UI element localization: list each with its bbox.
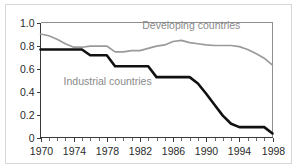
y-tick-label: 0.4: [20, 86, 35, 98]
x-axis-tick-labels: 19701974197819821986199019941998: [30, 145, 286, 157]
y-axis-tick-labels: 00.20.40.60.81.0: [20, 17, 35, 144]
series-line-industrial-countries: [41, 50, 273, 134]
x-tick-label: 1978: [96, 145, 120, 157]
x-tick-label: 1986: [162, 145, 186, 157]
x-tick-label: 1994: [228, 145, 252, 157]
x-tick-label: 1974: [63, 145, 87, 157]
y-tick-label: 1.0: [20, 17, 35, 29]
y-tick-label: 0.6: [20, 63, 35, 75]
y-tick-label: 0: [29, 132, 35, 144]
x-tick-label: 1998: [262, 145, 286, 157]
y-tick-label: 0.2: [20, 109, 35, 121]
series-label-developing-countries: Developing countries: [142, 19, 240, 31]
chart-figure: 00.20.40.60.81.0 19701974197819821986199…: [0, 0, 297, 168]
series-label-industrial-countries: Industrial countries: [64, 75, 152, 87]
series-inline-labels: Developing countries Industrial countrie…: [64, 19, 241, 87]
x-tick-label: 1990: [195, 145, 219, 157]
y-tick-label: 0.8: [20, 40, 35, 52]
y-axis-tick-marks: [37, 24, 41, 139]
x-tick-label: 1970: [30, 145, 54, 157]
x-tick-label: 1982: [129, 145, 153, 157]
line-chart-canvas: 00.20.40.60.81.0 19701974197819821986199…: [0, 0, 297, 168]
